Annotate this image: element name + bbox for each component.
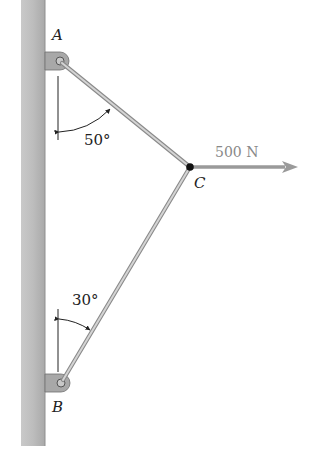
angle-arc-a (59, 109, 110, 132)
angle-label-a: 50° (84, 133, 111, 148)
point-label-a: A (52, 28, 63, 43)
point-label-c: C (194, 176, 205, 191)
angle-label-b: 30° (72, 293, 99, 308)
angle-arc-b (59, 319, 90, 330)
point-label-b: B (52, 400, 63, 415)
wall (21, 0, 45, 446)
force-arrow (190, 161, 298, 173)
diagram-canvas (0, 0, 309, 465)
joint-c (186, 163, 194, 171)
member-bc (63, 167, 190, 380)
member-ac (62, 63, 190, 167)
force-label: 500 N (215, 145, 258, 159)
